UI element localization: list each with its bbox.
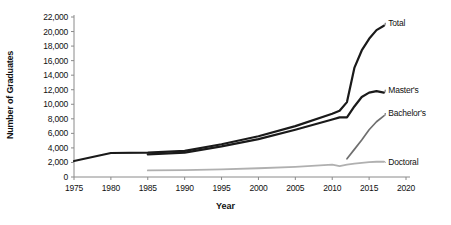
y-tick-label: 10,000 — [43, 99, 68, 109]
y-tick-label: 6,000 — [48, 128, 69, 138]
y-tick-label: 12,000 — [43, 85, 68, 95]
series-line-bachelor-s — [347, 116, 384, 159]
y-tick-label: 8,000 — [48, 114, 69, 124]
x-tick-label: 2005 — [286, 183, 305, 193]
x-tick-label: 2020 — [397, 183, 416, 193]
x-tick-label: 1975 — [65, 183, 84, 193]
series-line-master-s — [148, 91, 384, 154]
y-tick-label: 4,000 — [48, 143, 69, 153]
y-tick-label: 20,000 — [43, 27, 68, 37]
x-tick-label: 2010 — [323, 183, 342, 193]
y-axis-tick-group: 02,0004,0006,0008,00010,00012,00014,0001… — [43, 12, 74, 182]
series-label-doctoral: Doctoral — [388, 157, 418, 167]
y-tick-label: 2,000 — [48, 157, 69, 167]
y-tick-label: 14,000 — [43, 70, 68, 80]
x-axis-title: Year — [0, 201, 451, 211]
x-tick-label: 1985 — [139, 183, 158, 193]
x-axis-tick-group: 1975198019851990199520002005201020152020 — [65, 177, 416, 193]
y-tick-label: 16,000 — [43, 56, 68, 66]
graduates-line-chart: Number of Graduates 02,0004,0006,0008,00… — [0, 0, 451, 225]
series-label-bachelor-s: Bachelor's — [388, 108, 425, 118]
x-tick-label: 1995 — [213, 183, 232, 193]
series-group — [74, 26, 384, 171]
x-tick-label: 2000 — [249, 183, 268, 193]
x-tick-label: 1990 — [176, 183, 195, 193]
y-tick-label: 18,000 — [43, 41, 68, 51]
series-line-doctoral — [148, 162, 384, 171]
series-label-group: TotalMaster'sBachelor'sDoctoral — [385, 18, 426, 168]
series-line-total — [74, 26, 384, 161]
series-label-total: Total — [388, 18, 405, 28]
y-tick-label: 0 — [63, 172, 68, 182]
series-label-master-s: Master's — [388, 85, 418, 95]
y-tick-label: 22,000 — [43, 12, 68, 22]
x-tick-label: 2015 — [360, 183, 379, 193]
plot-area: 02,0004,0006,0008,00010,00012,00014,0001… — [0, 0, 451, 225]
x-tick-label: 1980 — [102, 183, 121, 193]
